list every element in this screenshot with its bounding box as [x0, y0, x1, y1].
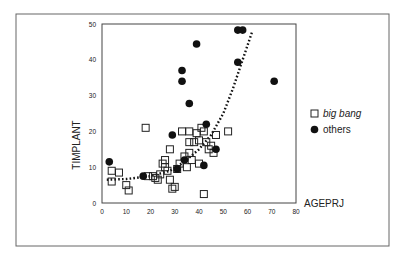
trendline-path	[107, 31, 253, 180]
plot-area	[102, 24, 296, 203]
legend-label-others: others	[323, 124, 351, 135]
data-point-big-bang	[193, 130, 200, 137]
x-tick-label: 70	[268, 208, 276, 215]
data-point-others	[169, 131, 177, 139]
data-point-big-bang	[166, 176, 173, 183]
data-point-big-bang	[169, 185, 176, 192]
trendline	[107, 31, 253, 180]
data-point-others	[234, 59, 242, 67]
data-point-big-bang	[123, 182, 130, 189]
data-point-others	[178, 67, 186, 75]
y-tick-label: 0	[92, 200, 96, 207]
data-point-big-bang	[179, 128, 186, 135]
x-axis-label: AGEPRJ	[304, 198, 344, 209]
data-point-others	[178, 77, 186, 85]
x-tick-label: 10	[123, 208, 131, 215]
y-tick-label: 40	[89, 56, 97, 63]
x-tick-label: 20	[147, 208, 155, 215]
data-point-others	[270, 77, 278, 85]
data-point-others	[139, 172, 147, 180]
legend-filled-circle-icon	[311, 126, 319, 134]
x-tick-label: 0	[100, 208, 104, 215]
x-tick-label: 80	[292, 208, 300, 215]
data-point-big-bang	[142, 124, 149, 131]
data-point-big-bang	[171, 183, 178, 190]
data-point-big-bang	[225, 128, 232, 135]
data-point-others	[193, 40, 201, 48]
data-point-big-bang	[125, 187, 132, 194]
y-tick-label: 30	[89, 92, 97, 99]
scatter-chart: 01020304050 01020304050607080 TIMPLANT A…	[0, 0, 402, 265]
data-point-others	[105, 158, 113, 166]
data-point-others	[200, 162, 208, 170]
data-point-others	[173, 165, 181, 173]
data-point-others	[202, 120, 210, 128]
chart-canvas: 01020304050 01020304050607080 TIMPLANT A…	[0, 0, 402, 265]
y-axis-label: TIMPLANT	[71, 120, 82, 169]
x-tick-label: 50	[220, 208, 228, 215]
x-tick-label: 60	[244, 208, 252, 215]
data-point-others	[186, 100, 194, 108]
y-tick-label: 20	[89, 128, 97, 135]
data-point-big-bang	[183, 164, 190, 171]
data-point-big-bang	[196, 137, 203, 144]
data-point-others	[181, 156, 189, 164]
y-tick-label: 50	[89, 21, 97, 28]
data-point-big-bang	[191, 139, 198, 146]
y-tick-label: 10	[89, 164, 97, 171]
x-tick-label: 40	[195, 208, 203, 215]
legend: big bang others	[311, 108, 362, 135]
data-point-big-bang	[166, 146, 173, 153]
data-point-big-bang	[186, 128, 193, 135]
y-axis-ticks: 01020304050	[89, 21, 97, 207]
data-point-big-bang	[186, 139, 193, 146]
data-point-big-bang	[115, 169, 122, 176]
data-point-others	[212, 146, 220, 154]
data-point-big-bang	[108, 167, 115, 174]
legend-label-big-bang: big bang	[323, 108, 362, 119]
x-tick-label: 30	[171, 208, 179, 215]
data-point-others	[239, 26, 247, 34]
legend-open-square-icon	[311, 110, 318, 117]
x-axis-ticks: 01020304050607080	[100, 208, 300, 215]
data-point-big-bang	[200, 191, 207, 198]
